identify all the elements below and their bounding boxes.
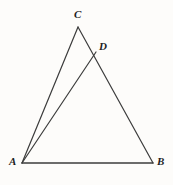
segment-CB bbox=[78, 27, 153, 163]
segment-AD bbox=[22, 52, 96, 163]
vertex-label-d: D bbox=[99, 41, 107, 52]
vertex-label-b: B bbox=[157, 156, 164, 167]
vertex-label-c: C bbox=[74, 9, 81, 20]
geometry-figure: C D A B bbox=[0, 0, 173, 185]
segment-AC bbox=[22, 27, 78, 163]
vertex-label-a: A bbox=[9, 156, 16, 167]
geometry-canvas bbox=[0, 0, 173, 185]
